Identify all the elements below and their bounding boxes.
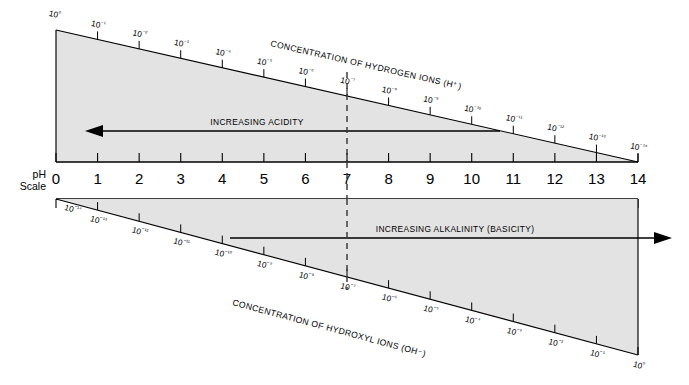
hydrogen-exponent-2-group: 10⁻² — [132, 27, 148, 40]
ph-diagram-canvas: 10⁰10⁻¹10⁻²10⁻³10⁻⁴10⁻⁵10⁻⁶10⁻⁷10⁻⁸10⁻⁹1… — [0, 0, 689, 385]
hydroxyl-exponent-14-group: 10⁰ — [632, 359, 646, 372]
hydrogen-exponent-5: 10⁻⁵ — [256, 56, 273, 69]
hydrogen-exponent-13-group: 10⁻¹³ — [588, 131, 606, 145]
ph-value-6: 6 — [301, 170, 309, 187]
hydrogen-concentration-caption: CONCENTRATION OF HYDROGEN IONS (H⁺) — [270, 38, 463, 91]
hydroxyl-exponent-4-group: 10⁻¹⁰ — [214, 247, 233, 261]
ph-scale-diagram: 10⁰10⁻¹10⁻²10⁻³10⁻⁴10⁻⁵10⁻⁶10⁻⁷10⁻⁸10⁻⁹1… — [0, 0, 689, 385]
ph-value-2: 2 — [135, 170, 143, 187]
ph-value-12: 12 — [547, 170, 564, 187]
hydrogen-exponent-3-group: 10⁻³ — [173, 37, 189, 50]
hydroxyl-exponent-3: 10⁻¹¹ — [172, 235, 190, 249]
hydrogen-exponent-9-group: 10⁻⁹ — [423, 93, 440, 106]
hydroxyl-exponent-4: 10⁻¹⁰ — [214, 247, 233, 261]
increasing-acidity-label: INCREASING ACIDITY — [210, 117, 303, 127]
hydrogen-exponent-11-group: 10⁻¹¹ — [505, 112, 523, 126]
hydrogen-exponent-6-group: 10⁻⁶ — [298, 65, 315, 78]
hydroxyl-exponent-7-group: 10⁻⁷ — [340, 280, 356, 294]
ph-value-3: 3 — [177, 170, 185, 187]
hydroxyl-exponent-1-group: 10⁻¹³ — [89, 213, 107, 227]
bottom-band-group: 10⁻¹⁴10⁻¹³10⁻¹²10⁻¹¹10⁻¹⁰10⁻⁹10⁻⁸10⁻⁷10⁻… — [56, 199, 646, 372]
hydrogen-exponent-8: 10⁻⁸ — [381, 84, 398, 97]
ph-value-1: 1 — [93, 170, 101, 187]
hydroxyl-exponent-3-group: 10⁻¹¹ — [172, 235, 190, 249]
hydrogen-exponent-2: 10⁻² — [132, 27, 148, 40]
hydroxyl-exponent-1: 10⁻¹³ — [89, 213, 107, 227]
hydroxyl-exponent-2-group: 10⁻¹² — [131, 224, 149, 238]
hydrogen-exponent-6: 10⁻⁶ — [298, 65, 315, 78]
hydrogen-exponent-5-group: 10⁻⁵ — [256, 56, 273, 69]
hydroxyl-exponent-13: 10⁻¹ — [589, 347, 605, 361]
hydroxyl-exponent-8-group: 10⁻⁶ — [381, 291, 398, 305]
ph-value-8: 8 — [384, 170, 392, 187]
hydroxyl-exponent-10-group: 10⁻⁴ — [464, 314, 481, 328]
ph-value-14: 14 — [630, 170, 647, 187]
hydrogen-exponent-9: 10⁻⁹ — [423, 93, 440, 106]
hydroxyl-exponent-14: 10⁰ — [632, 359, 646, 372]
ph-value-10: 10 — [463, 170, 480, 187]
ph-value-13: 13 — [588, 170, 605, 187]
hydrogen-exponent-10-group: 10⁻¹⁰ — [463, 103, 482, 117]
increasing-alkalinity-label: INCREASING ALKALINITY (BASICITY) — [376, 224, 535, 234]
hydroxyl-exponent-10: 10⁻⁴ — [464, 314, 481, 328]
hydrogen-exponent-12: 10⁻¹² — [547, 121, 565, 135]
hydroxyl-exponent-5: 10⁻⁹ — [256, 258, 273, 272]
hydroxyl-exponent-13-group: 10⁻¹ — [589, 347, 605, 361]
ph-value-11: 11 — [505, 170, 521, 187]
ph-scale-label-line2: Scale — [20, 180, 46, 192]
hydroxyl-exponent-12: 10⁻² — [548, 336, 564, 350]
ph-value-0: 0 — [52, 170, 60, 187]
hydroxyl-exponent-6: 10⁻⁸ — [298, 269, 315, 283]
ph-scale-label-group: pH Scale — [20, 168, 46, 192]
hydrogen-exponent-12-group: 10⁻¹² — [547, 121, 565, 135]
hydrogen-exponent-0: 10⁰ — [48, 8, 62, 21]
ph-scale-label-line1: pH — [33, 168, 46, 180]
ph-value-4: 4 — [218, 170, 226, 187]
ph-axis-number-group: 01234567891011121314 — [52, 170, 647, 187]
hydroxyl-exponent-7: 10⁻⁷ — [340, 280, 356, 294]
hydrogen-exponent-10: 10⁻¹⁰ — [463, 103, 482, 117]
hydroxyl-exponent-9: 10⁻⁵ — [423, 302, 440, 316]
alkalinity-arrow-head — [654, 232, 672, 244]
hydroxyl-exponent-8: 10⁻⁶ — [381, 291, 398, 305]
hydrogen-exponent-4-group: 10⁻⁴ — [215, 46, 232, 59]
hydrogen-exponent-0-group: 10⁰ — [48, 8, 62, 21]
ph-value-5: 5 — [260, 170, 268, 187]
hydrogen-exponent-14-group: 10⁻¹⁴ — [629, 140, 648, 154]
top-caption-group: CONCENTRATION OF HYDROGEN IONS (H⁺) — [270, 38, 463, 91]
hydroxyl-exponent-12-group: 10⁻² — [548, 336, 564, 350]
bottom-caption-group: CONCENTRATION OF HYDROXYL IONS (OH⁻) — [231, 297, 427, 358]
hydrogen-exponent-1: 10⁻¹ — [90, 18, 106, 31]
hydroxyl-exponent-6-group: 10⁻⁸ — [298, 269, 315, 283]
hydroxyl-exponent-11-group: 10⁻³ — [506, 325, 522, 339]
hydroxyl-exponent-11: 10⁻³ — [506, 325, 522, 339]
hydroxyl-exponent-9-group: 10⁻⁵ — [423, 302, 440, 316]
hydroxyl-concentration-caption: CONCENTRATION OF HYDROXYL IONS (OH⁻) — [231, 297, 427, 358]
ph-value-9: 9 — [426, 170, 434, 187]
hydroxyl-exponent-5-group: 10⁻⁹ — [256, 258, 273, 272]
hydrogen-exponent-8-group: 10⁻⁸ — [381, 84, 398, 97]
hydrogen-exponent-3: 10⁻³ — [173, 37, 189, 50]
hydrogen-exponent-4: 10⁻⁴ — [215, 46, 232, 59]
hydroxyl-exponent-2: 10⁻¹² — [131, 224, 149, 238]
hydrogen-exponent-1-group: 10⁻¹ — [90, 18, 106, 31]
top-band-group: 10⁰10⁻¹10⁻²10⁻³10⁻⁴10⁻⁵10⁻⁶10⁻⁷10⁻⁸10⁻⁹1… — [48, 8, 648, 162]
hydrogen-exponent-13: 10⁻¹³ — [588, 131, 606, 145]
hydrogen-exponent-11: 10⁻¹¹ — [505, 112, 523, 126]
hydrogen-exponent-14: 10⁻¹⁴ — [629, 140, 648, 154]
